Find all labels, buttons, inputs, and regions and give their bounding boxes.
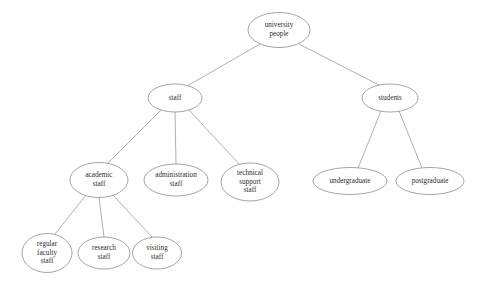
tree-node-postgraduate[interactable]: postgraduate [396, 168, 464, 195]
tree-node-regular-faculty-staff[interactable]: regularfacultystaff [22, 234, 72, 273]
node-label-regular-faculty-staff: regular [37, 240, 58, 248]
tree-edge-university-people-to-staff [187, 44, 260, 86]
tree-node-administration-staff[interactable]: administrationstaff [144, 164, 208, 196]
tree-edge-staff-to-technical-support-staff [189, 110, 240, 165]
node-label-academic-staff: academic [85, 171, 112, 179]
tree-edge-staff-to-academic-staff [108, 110, 161, 163]
node-label-postgraduate: postgraduate [412, 177, 449, 185]
tree-edge-academic-staff-to-visiting-staff [113, 195, 152, 237]
edges-group [55, 44, 422, 237]
node-label-visiting-staff: visiting [146, 244, 168, 252]
tree-edge-academic-staff-to-research-staff [99, 197, 104, 237]
node-label-administration-staff: staff [170, 180, 183, 188]
tree-node-visiting-staff[interactable]: visitingstaff [133, 237, 182, 269]
tree-node-undergraduate[interactable]: undergraduate [313, 168, 387, 195]
node-label-technical-support-staff: support [239, 178, 261, 186]
tree-node-students[interactable]: students [362, 84, 418, 112]
node-label-technical-support-staff: staff [244, 186, 257, 194]
tree-node-research-staff[interactable]: researchstaff [78, 237, 130, 269]
tree-diagram-canvas: universitypeoplestaffstudentsacademicsta… [0, 0, 478, 282]
node-label-students: students [378, 94, 402, 102]
tree-edge-university-people-to-students [299, 44, 379, 85]
tree-diagram-svg: universitypeoplestaffstudentsacademicsta… [0, 0, 478, 282]
tree-node-academic-staff[interactable]: academicstaff [70, 163, 128, 198]
node-label-technical-support-staff: technical [237, 169, 263, 177]
node-label-regular-faculty-staff: faculty [37, 249, 57, 257]
node-label-university-people: people [269, 30, 288, 38]
node-label-visiting-staff: staff [151, 253, 164, 261]
tree-node-technical-support-staff[interactable]: technicalsupportstaff [221, 163, 279, 201]
nodes-group: universitypeoplestaffstudentsacademicsta… [22, 13, 464, 273]
node-label-regular-faculty-staff: staff [41, 257, 54, 265]
node-label-administration-staff: administration [155, 171, 197, 179]
tree-edge-academic-staff-to-regular-faculty-staff [55, 195, 86, 234]
node-label-research-staff: research [92, 244, 116, 252]
tree-node-staff[interactable]: staff [148, 84, 202, 112]
node-label-undergraduate: undergraduate [330, 177, 371, 185]
tree-edge-staff-to-administration-staff [175, 112, 176, 164]
node-label-research-staff: staff [98, 253, 111, 261]
node-label-university-people: university [265, 21, 294, 29]
node-label-academic-staff: staff [93, 180, 106, 188]
tree-edge-students-to-undergraduate [358, 111, 381, 168]
tree-node-university-people[interactable]: universitypeople [248, 13, 310, 48]
node-label-staff: staff [169, 94, 182, 102]
tree-edge-students-to-postgraduate [399, 111, 422, 168]
